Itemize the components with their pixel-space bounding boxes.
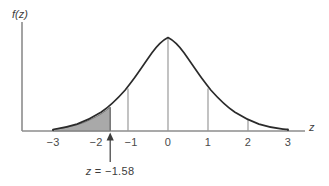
x-tick-label-neg1: −1	[125, 136, 138, 148]
x-tick-label-0: 0	[165, 136, 171, 148]
z-annotation-equals: =	[95, 165, 102, 177]
x-axis-label: z	[309, 121, 315, 133]
normal-curve	[53, 38, 288, 130]
z-annotation-value: −1.58	[105, 165, 134, 177]
x-tick-label-pos2: 2	[245, 136, 251, 148]
x-tick-label-neg2: −2	[90, 136, 103, 148]
z-value-arrow	[107, 133, 114, 163]
x-tick-label-pos1: 1	[205, 136, 211, 148]
x-tick-label-neg3: −3	[47, 136, 60, 148]
plot-canvas	[0, 0, 329, 186]
z-value-annotation: z = −1.58	[86, 165, 135, 177]
y-axis-label: f(z)	[12, 8, 28, 20]
x-tick-label-pos3: 3	[285, 136, 291, 148]
normal-distribution-figure: f(z) z −3 −2 −1 0 1 2 3 z = −1.58	[0, 0, 329, 186]
